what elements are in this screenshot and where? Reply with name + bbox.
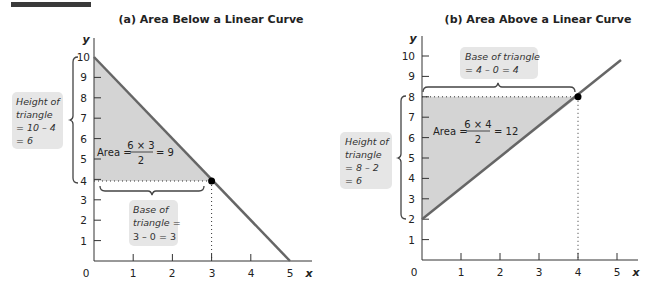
svg-text:Base of: Base of	[133, 204, 170, 215]
svg-text:2: 2	[80, 214, 87, 226]
svg-text:= 8 – 2: = 8 – 2	[345, 162, 379, 173]
height-brace	[70, 57, 78, 183]
svg-text:8: 8	[80, 92, 87, 104]
svg-text:Base of triangle: Base of triangle	[465, 51, 540, 62]
svg-text:5: 5	[408, 152, 415, 164]
svg-text:6 × 3: 6 × 3	[127, 140, 154, 151]
svg-text:3 – 0 = 3: 3 – 0 = 3	[133, 231, 176, 242]
base-brace	[423, 83, 575, 92]
svg-text:6: 6	[80, 133, 87, 145]
svg-text:6: 6	[408, 132, 415, 144]
svg-text:10: 10	[77, 51, 90, 63]
panel-a: (a) Area Below a Linear Curve 1 2 3 4 5 …	[12, 13, 313, 280]
svg-text:1: 1	[130, 267, 137, 279]
svg-text:3: 3	[408, 193, 415, 205]
svg-text:2: 2	[138, 155, 144, 166]
svg-text:3: 3	[80, 194, 87, 206]
svg-text:2: 2	[497, 266, 504, 278]
x-axis-label: x	[631, 266, 640, 279]
svg-text:0: 0	[83, 267, 90, 279]
svg-text:triangle: triangle	[345, 149, 382, 160]
x-ticks: 0 1 2 3 4 5	[411, 253, 621, 278]
svg-text:1: 1	[80, 235, 87, 247]
svg-text:1: 1	[458, 266, 465, 278]
svg-text:0: 0	[411, 266, 418, 278]
svg-text:= 4 – 0 = 4: = 4 – 0 = 4	[465, 64, 519, 75]
panel-b: (b) Area Above a Linear Curve 1 2 3 4 5 …	[340, 13, 640, 279]
svg-text:Height of: Height of	[345, 136, 390, 147]
svg-text:3: 3	[209, 267, 216, 279]
svg-text:= 6: = 6	[16, 135, 33, 146]
svg-text:7: 7	[408, 111, 415, 123]
svg-text:= 6: = 6	[345, 175, 362, 186]
height-brace	[398, 96, 406, 219]
base-brace	[100, 186, 204, 195]
svg-text:7: 7	[80, 112, 87, 124]
svg-text:2: 2	[475, 134, 481, 145]
svg-text:4: 4	[248, 267, 255, 279]
svg-text:4: 4	[80, 175, 87, 187]
svg-text:5: 5	[80, 153, 87, 165]
svg-text:3: 3	[536, 266, 543, 278]
svg-text:= 9: = 9	[156, 147, 174, 158]
svg-text:1: 1	[408, 234, 415, 246]
svg-text:2: 2	[408, 213, 415, 225]
x-ticks: 0 1 2 3 4 5	[83, 254, 294, 279]
svg-text:4: 4	[575, 266, 582, 278]
y-axis-label: y	[409, 32, 417, 45]
svg-text:= 12: = 12	[494, 126, 518, 137]
svg-text:9: 9	[408, 70, 415, 82]
svg-text:= 10 – 4: = 10 – 4	[16, 122, 56, 133]
svg-text:Area =: Area =	[433, 126, 468, 137]
svg-text:6 × 4: 6 × 4	[464, 119, 491, 130]
svg-text:2: 2	[169, 267, 176, 279]
svg-text:5: 5	[287, 267, 294, 279]
point-3-4	[208, 178, 215, 185]
svg-text:8: 8	[408, 91, 415, 103]
svg-text:5: 5	[614, 266, 621, 278]
panel-a-title: (a) Area Below a Linear Curve	[118, 13, 303, 26]
point-4-8	[575, 93, 582, 100]
header-bar	[11, 2, 91, 7]
svg-text:Height of: Height of	[16, 96, 61, 107]
svg-text:4: 4	[408, 172, 415, 184]
svg-text:triangle =: triangle =	[133, 217, 181, 228]
figure: (a) Area Below a Linear Curve 1 2 3 4 5 …	[0, 0, 654, 283]
y-axis-label: y	[82, 33, 90, 46]
svg-text:triangle: triangle	[16, 109, 53, 120]
svg-text:9: 9	[80, 71, 87, 83]
x-axis-label: x	[304, 267, 313, 280]
svg-text:10: 10	[402, 50, 415, 62]
panel-b-title: (b) Area Above a Linear Curve	[445, 13, 632, 26]
